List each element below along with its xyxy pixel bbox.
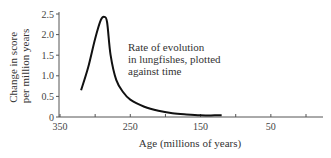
x-axis-title: Age (millions of years) xyxy=(139,137,242,150)
x-tick-label: 50 xyxy=(266,121,276,132)
y-tick-label: 1.5 xyxy=(42,50,55,61)
x-tick-label: 250 xyxy=(123,121,138,132)
x-tick-label: 150 xyxy=(193,121,208,132)
y-tick-label: 2.0 xyxy=(42,29,55,40)
y-tick-label: 1.0 xyxy=(42,70,55,81)
annotation: Rate of evolution in lungfishes, plotted… xyxy=(128,41,223,77)
y-tick-label: 2.5 xyxy=(42,9,55,20)
chart: 00.51.01.52.02.535025015050 Age (million… xyxy=(0,0,331,158)
x-tick-label: 350 xyxy=(53,121,68,132)
y-axis-title: Change in score per million years xyxy=(7,29,31,104)
y-tick-label: 0.5 xyxy=(42,91,55,102)
